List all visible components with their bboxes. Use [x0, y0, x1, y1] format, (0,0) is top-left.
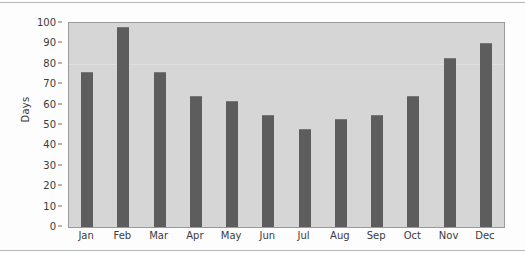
y-tick-mark — [58, 226, 62, 227]
y-tick-label: 50 — [43, 119, 56, 130]
bar-aug — [335, 119, 347, 227]
y-tick-mark — [58, 42, 62, 43]
bar-sep — [371, 115, 383, 227]
bar-feb — [117, 27, 129, 227]
x-tick-label-jun: Jun — [260, 230, 276, 241]
x-tick-label-nov: Nov — [439, 230, 459, 241]
bar-oct — [407, 96, 419, 227]
y-tick-mark — [58, 185, 62, 186]
bar-may — [226, 101, 238, 227]
y-tick-mark — [58, 124, 62, 125]
y-tick-mark — [58, 144, 62, 145]
x-tick-label-sep: Sep — [367, 230, 386, 241]
bar-apr — [190, 96, 202, 227]
x-tick-label-jan: Jan — [78, 230, 93, 241]
figure-top-rule — [0, 2, 525, 3]
y-tick-mark — [58, 205, 62, 206]
bar-jan — [81, 72, 93, 227]
bar-dec — [480, 43, 492, 227]
y-tick-label: 0 — [50, 221, 56, 232]
bar-nov — [444, 58, 456, 227]
x-tick-label-aug: Aug — [330, 230, 350, 241]
bar-mar — [154, 72, 166, 227]
gridline — [69, 64, 504, 65]
y-tick-label: 30 — [43, 159, 56, 170]
y-tick-label: 60 — [43, 98, 56, 109]
x-tick-label-may: May — [221, 230, 242, 241]
x-tick-label-feb: Feb — [114, 230, 132, 241]
y-tick-mark — [58, 83, 62, 84]
y-tick-mark — [58, 22, 62, 23]
y-tick-mark — [58, 62, 62, 63]
x-axis-tick-labels: JanFebMarAprMayJunJulAugSepOctNovDec — [68, 230, 505, 248]
bar-jun — [262, 115, 274, 227]
bar-jul — [299, 129, 311, 227]
y-tick-label: 20 — [43, 180, 56, 191]
y-tick-label: 70 — [43, 78, 56, 89]
y-tick-label: 40 — [43, 139, 56, 150]
y-tick-mark — [58, 103, 62, 104]
x-tick-label-apr: Apr — [186, 230, 203, 241]
x-tick-label-jul: Jul — [298, 230, 310, 241]
y-tick-label: 80 — [43, 57, 56, 68]
y-tick-label: 10 — [43, 200, 56, 211]
plot-area — [68, 22, 505, 228]
x-tick-label-mar: Mar — [149, 230, 168, 241]
y-tick-label: 100 — [37, 17, 56, 28]
y-tick-mark — [58, 164, 62, 165]
y-axis-tick-labels: 0102030405060708090100 — [26, 22, 62, 228]
bar-chart-figure: Days 0102030405060708090100 JanFebMarApr… — [0, 0, 525, 254]
y-tick-label: 90 — [43, 37, 56, 48]
x-tick-label-dec: Dec — [475, 230, 494, 241]
figure-bottom-rule — [0, 250, 525, 251]
x-tick-label-oct: Oct — [404, 230, 421, 241]
